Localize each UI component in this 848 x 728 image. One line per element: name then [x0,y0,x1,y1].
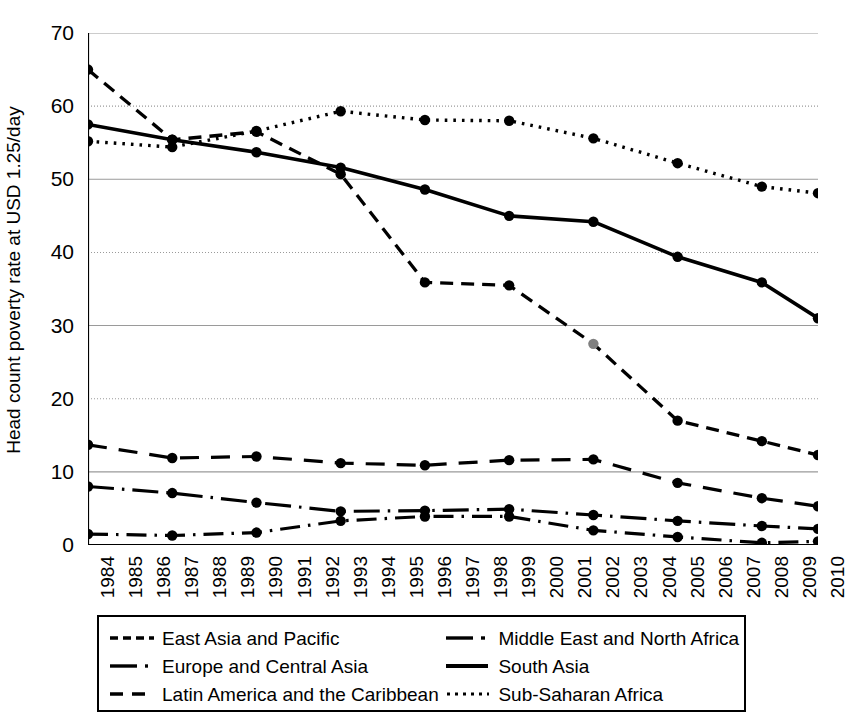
data-point [588,339,598,349]
data-point [757,277,767,287]
legend-label: Europe and Central Asia [162,657,368,676]
x-axis-tick-label: 1985 [126,556,145,616]
data-point [672,252,682,262]
x-axis-tick-label: 1986 [154,556,173,616]
data-point [504,504,514,514]
x-axis-tick-label: 2005 [688,556,707,616]
data-point [420,460,430,470]
dotted-line-key [445,687,491,701]
data-point [757,538,767,545]
data-point [88,481,93,491]
data-point [504,455,514,465]
x-axis-tick-label: 2002 [603,556,622,616]
data-point [335,458,345,468]
data-point [251,497,261,507]
data-point [588,133,598,143]
legend-row: Europe and Central Asia South Asia [99,652,744,680]
x-axis-tick-labels: 1984198519861987198819891990199119921993… [88,548,828,616]
data-point [420,277,430,287]
data-point [251,147,261,157]
data-point [167,453,177,463]
data-point [167,488,177,498]
data-point [251,126,261,136]
y-axis-title: Head count poverty rate at USD 1.25/day [0,0,28,560]
x-axis-tick-label: 1999 [519,556,538,616]
y-axis-tick-label: 0 [30,534,74,555]
legend-label: Sub-Saharan Africa [498,685,663,704]
legend-item-latin-america-and-the-caribbean: Latin America and the Caribbean [99,680,445,708]
y-axis-tick-label: 40 [30,241,74,262]
data-point [335,162,345,172]
data-point [813,536,818,545]
data-point [672,516,682,526]
x-axis-tick-label: 2009 [800,556,819,616]
data-point [757,436,767,446]
legend-item-middle-east-and-north-africa: Middle East and North Africa [445,624,744,652]
series-line [88,70,818,455]
x-axis-tick-label: 2003 [631,556,650,616]
plot-area [88,33,818,545]
x-axis-tick-label: 1993 [351,556,370,616]
chart-legend: East Asia and Pacific Middle East and No… [97,615,746,712]
series-line [88,111,818,193]
y-axis-tick-label: 30 [30,315,74,336]
long-dashed-line-key [109,687,155,701]
x-axis-tick-label: 1987 [182,556,201,616]
series-sub-saharan-africa [88,106,818,198]
y-axis-tick-label: 20 [30,388,74,409]
data-point [672,158,682,168]
data-point [588,525,598,535]
x-axis-tick-label: 1994 [379,556,398,616]
x-axis-tick-label: 2010 [828,556,847,616]
data-point [420,505,430,515]
data-point [335,106,345,116]
legend-label: South Asia [498,657,589,676]
solid-dot-line-key [445,631,491,645]
data-point [813,188,818,198]
data-point [251,451,261,461]
x-axis-tick-label: 1992 [323,556,342,616]
legend-row: Latin America and the Caribbean Sub-Saha… [99,680,744,708]
series-latin-america-and-the-caribbean [88,440,818,512]
legend-row: East Asia and Pacific Middle East and No… [99,624,744,652]
legend-label: Latin America and the Caribbean [162,685,439,704]
y-axis-tick-label: 60 [30,95,74,116]
data-point [504,211,514,221]
data-point [813,524,818,534]
x-axis-tick-label: 1998 [491,556,510,616]
data-point [167,530,177,540]
data-point [335,516,345,526]
data-point [757,493,767,503]
data-point [88,440,93,450]
data-point [88,119,93,129]
legend-item-europe-and-central-asia: Europe and Central Asia [99,652,445,680]
x-axis-tick-label: 2001 [575,556,594,616]
data-point [672,532,682,542]
series-east-asia-and-pacific [88,64,818,460]
dashed-line-key [109,631,155,645]
data-point [251,527,261,537]
x-axis-tick-label: 2008 [772,556,791,616]
x-axis-tick-label: 1988 [210,556,229,616]
series-south-asia [88,119,818,323]
y-axis-title-text: Head count poverty rate at USD 1.25/day [3,106,25,453]
y-axis-tick-label: 70 [30,22,74,43]
legend-item-sub-saharan-africa: Sub-Saharan Africa [445,680,744,708]
data-point [813,501,818,511]
series-line [88,124,818,318]
x-axis-tick-label: 1991 [295,556,314,616]
data-point [672,478,682,488]
y-axis-tick-label: 10 [30,461,74,482]
series-line [88,516,818,542]
data-point [88,136,93,146]
legend-item-south-asia: South Asia [445,652,744,680]
x-axis-tick-label: 2007 [744,556,763,616]
legend-label: Middle East and North Africa [498,629,739,648]
x-axis-tick-label: 2000 [547,556,566,616]
data-point [588,454,598,464]
data-point [504,116,514,126]
x-axis-tick-label: 1990 [266,556,285,616]
x-axis-tick-label: 1984 [98,556,117,616]
data-point [757,521,767,531]
